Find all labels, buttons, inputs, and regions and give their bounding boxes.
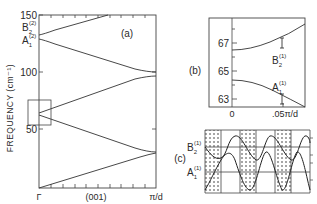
- svg-text:B2(1): B2(1): [272, 53, 286, 68]
- panel-b-mode-label-b2: B2(1): [272, 53, 286, 68]
- panel-a-y-ticks: [39, 15, 156, 129]
- panel-a-ytick-50: 50: [26, 124, 38, 135]
- panel-a-bottom-ticks: [51, 184, 145, 188]
- panel-a-ylabel: FREQUENCY (cm⁻¹): [5, 64, 15, 152]
- panel-c-dotted-layers: [205, 130, 291, 193]
- panel-a-label: (a): [121, 28, 133, 39]
- panel-c: (c) B2(1) A1(1): [174, 130, 313, 193]
- panel-b-mode-label-a1: A1(1): [272, 80, 286, 95]
- panel-b-ytick-65: 65: [218, 66, 230, 77]
- panel-a-xtick-pi-d: π/d: [149, 192, 163, 202]
- panel-a-ytick-100: 100: [20, 67, 37, 78]
- panel-a-curves: [39, 15, 156, 188]
- panel-b-curves: [232, 24, 305, 107]
- panel-b-y-ticks: [232, 29, 283, 107]
- svg-text:B2(1): B2(1): [187, 140, 201, 155]
- panel-b-xtick-05: .05π/d: [272, 109, 298, 119]
- a1-1-curve: [232, 80, 305, 107]
- panel-c-mode-label-b2: B2(1): [187, 140, 201, 155]
- panel-c-mode-label-a1: A1(1): [187, 165, 201, 180]
- b2-1-curve: [232, 24, 305, 50]
- figure-canvas: 150 100 50 FREQUENCY (cm⁻¹) Γ (001) π/d …: [0, 0, 317, 204]
- branch-3-curve: [39, 76, 156, 113]
- b2-2-curve: [39, 15, 108, 35]
- panel-b-label: (b): [189, 65, 201, 76]
- panel-b: 67 65 63 0 .05π/d (b) B2(1) A1(1): [189, 18, 305, 119]
- panel-a: 150 100 50 FREQUENCY (cm⁻¹) Γ (001) π/d …: [5, 10, 163, 202]
- svg-text:A1(1): A1(1): [187, 165, 201, 180]
- svg-text:A1(2): A1(2): [22, 33, 36, 48]
- a1-2-curve: [39, 39, 156, 72]
- panel-c-label: (c): [174, 153, 186, 164]
- branch-1-curve: [39, 153, 156, 188]
- panel-a-xtick-gamma: Γ: [37, 192, 42, 202]
- panel-b-ytick-63: 63: [218, 94, 230, 105]
- panel-a-mode-label-a1: A1(2): [22, 33, 36, 48]
- svg-text:A1(1): A1(1): [272, 80, 286, 95]
- branch-2-curve: [39, 115, 156, 152]
- panel-c-layer-lines: [205, 130, 310, 193]
- panel-b-ytick-67: 67: [218, 38, 230, 49]
- panel-b-xtick-0: 0: [229, 109, 234, 119]
- panel-c-right-ticks: [310, 138, 313, 180]
- panel-a-xtick-001: (001): [85, 192, 106, 202]
- panel-a-frame: [39, 15, 156, 188]
